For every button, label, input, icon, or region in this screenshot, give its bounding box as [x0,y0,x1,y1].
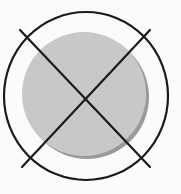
crossed-circle-diagram [0,0,181,194]
crossed-circle-svg [0,0,181,194]
